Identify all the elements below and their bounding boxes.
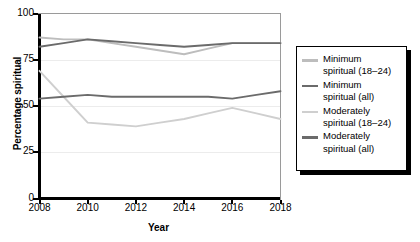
legend-label-3: Moderately spiritual (all) [323, 130, 374, 155]
chart-legend: Minimum spiritual (18–24)Minimum spiritu… [296, 46, 407, 171]
legend-item-2[interactable]: Moderately spiritual (18–24) [302, 105, 402, 130]
legend-label-0: Minimum spiritual (18–24) [323, 53, 391, 78]
chart-screenshot: Percentage spiritual 0255075100 20082010… [0, 0, 420, 242]
series-line-3 [40, 91, 281, 98]
legend-swatch-icon-3 [302, 136, 318, 139]
x-axis-title: Year [36, 222, 281, 233]
series-line-1 [40, 39, 281, 46]
legend-swatch-icon-1 [302, 85, 318, 88]
legend-swatch-icon-2 [302, 111, 318, 114]
series-lines [0, 0, 295, 242]
legend-item-0[interactable]: Minimum spiritual (18–24) [302, 53, 402, 78]
series-line-2 [40, 71, 281, 127]
legend-swatch-icon-0 [302, 59, 318, 62]
legend-label-1: Minimum spiritual (all) [323, 79, 374, 104]
line-chart: Percentage spiritual 0255075100 20082010… [0, 0, 295, 242]
legend-item-1[interactable]: Minimum spiritual (all) [302, 79, 402, 104]
legend-label-2: Moderately spiritual (18–24) [323, 105, 391, 130]
legend-item-3[interactable]: Moderately spiritual (all) [302, 130, 402, 155]
